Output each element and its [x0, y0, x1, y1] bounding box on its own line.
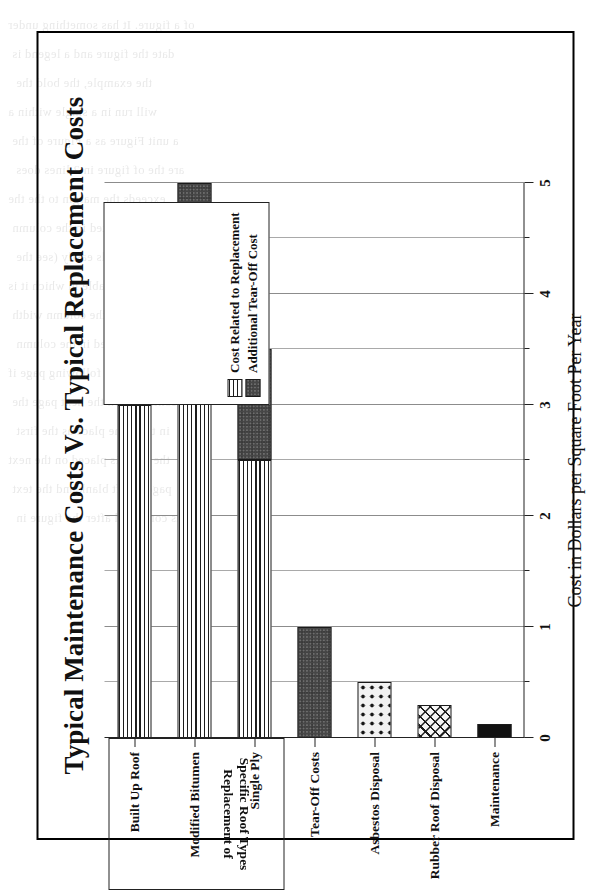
bar-segment-1: [357, 683, 391, 739]
bar-segment-1: [237, 461, 271, 739]
category-label-rubber-roof-disposal: Rubber Roof Disposal: [426, 752, 442, 879]
bar-segment-1: [297, 627, 331, 738]
x-tick-label-2: 2: [536, 512, 553, 520]
x-tick-major-0: [524, 737, 533, 738]
x-tick-label-1: 1: [536, 623, 553, 631]
x-tick-minor-1.5: [524, 570, 529, 571]
x-tick-major-1: [524, 626, 533, 627]
x-tick-minor-2.5: [524, 459, 529, 460]
category-label-tear-off-costs: Tear-Off Costs: [306, 752, 322, 837]
group-box-caption: Specific Roof Types Replacement of: [220, 739, 251, 889]
x-tick-label-3: 3: [536, 401, 553, 409]
x-tick-major-5: [524, 182, 533, 183]
figure-frame: Typical Maintenance Costs Vs. Typical Re…: [36, 31, 574, 840]
category-tick: [494, 738, 495, 747]
bar-rubber-roof-disposal: [417, 183, 451, 738]
x-tick-major-2: [524, 515, 533, 516]
x-tick-minor-0.5: [524, 681, 529, 682]
legend-label-1: Cost Related to Replacement: [226, 212, 242, 373]
category-tick: [374, 738, 375, 747]
bar-asbestos-disposal: [357, 183, 391, 738]
x-tick-label-4: 4: [536, 290, 553, 298]
x-tick-major-3: [524, 404, 533, 405]
category-tick: [314, 738, 315, 747]
bar-maintenance: [477, 183, 511, 738]
legend-label-2: Additional Tear-Off Cost: [244, 234, 260, 373]
roof-type-group-box: Specific Roof Types Replacement of: [108, 738, 284, 890]
category-axis-line: [523, 183, 524, 738]
chart-title: Typical Maintenance Costs Vs. Typical Re…: [58, 33, 89, 838]
legend-swatch-dark-checker: [245, 379, 260, 397]
x-tick-label-0: 0: [536, 734, 553, 742]
group-box-line1: Specific Roof Types: [236, 758, 251, 871]
legend-entry-2: Additional Tear-Off Cost: [244, 212, 260, 397]
category-tick: [434, 738, 435, 747]
x-tick-major-4: [524, 293, 533, 294]
x-tick-minor-4.5: [524, 237, 529, 238]
group-box-line2: Replacement of: [221, 769, 236, 859]
x-tick-minor-3.5: [524, 348, 529, 349]
x-axis-title: Cost in Dollars per Square Foot Per Year: [564, 183, 585, 738]
bar-tear-off-costs: [297, 183, 331, 738]
x-tick-label-5: 5: [536, 179, 553, 187]
plot-area: Built Up RoofModified BitumenSingle PlyT…: [104, 183, 524, 738]
legend-swatch-horizontal-lines: [227, 379, 242, 397]
category-label-maintenance: Maintenance: [486, 752, 502, 827]
chart-legend: Cost Related to ReplacementAdditional Te…: [103, 202, 269, 405]
category-label-asbestos-disposal: Asbestos Disposal: [366, 752, 382, 854]
bar-segment-1: [417, 705, 451, 738]
bar-segment-1: [117, 405, 151, 738]
legend-entry-1: Cost Related to Replacement: [226, 212, 242, 397]
